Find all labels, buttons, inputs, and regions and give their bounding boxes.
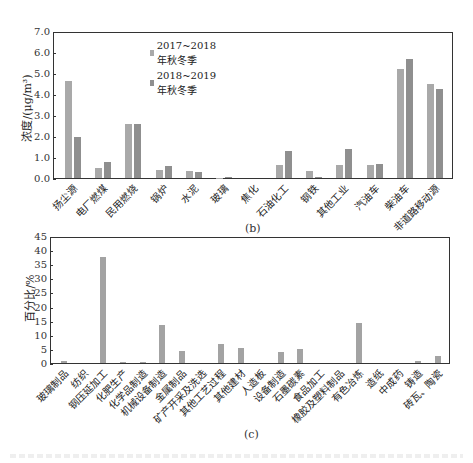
legend-swatch-2018 [150,80,154,86]
bar-2017 [336,165,343,178]
bar-2017 [156,170,163,178]
bar-2018 [315,177,322,178]
y-tick-label: 45 [19,232,47,242]
y-tick-label: 25 [19,288,47,298]
bar-2018 [436,89,443,178]
bar-2018 [406,59,413,178]
bar-2018 [285,151,292,178]
y-tick-label: 0.0 [22,174,50,184]
bar-c [179,351,185,363]
bar-c [238,348,244,363]
y-tick-mark [53,74,56,75]
panel-label-b: (b) [245,222,261,235]
bar-2018 [74,137,81,178]
bar-c [218,344,224,363]
bar-2018 [195,172,202,178]
y-tick-label: 5.0 [22,69,50,79]
legend-item-2017: 2017~2018年秋冬季 [150,38,218,68]
bar-2018 [134,124,141,178]
figure-caption [0,452,473,460]
bar-2017 [397,69,404,178]
y-tick-label: 20 [19,303,47,313]
y-tick-label: 4.0 [22,90,50,100]
legend-swatch-2017 [150,50,154,56]
bar-c [140,362,146,363]
y-tick-mark [50,308,53,309]
bar-2017 [427,84,434,178]
y-tick-mark [50,364,53,365]
y-tick-label: 6.0 [22,48,50,58]
y-tick-mark [50,265,53,266]
bar-c [61,361,67,363]
y-tick-label: 1.0 [22,153,50,163]
y-tick-label: 2.0 [22,132,50,142]
y-tick-label: 35 [19,260,47,270]
y-tick-label: 10 [19,331,47,341]
legend-item-2018: 2018~2019年秋冬季 [150,68,218,98]
bar-c [159,325,165,363]
y-tick-mark [50,322,53,323]
y-tick-label: 40 [19,246,47,256]
y-tick-label: 30 [19,274,47,284]
plot-area-b [53,32,453,179]
caption-text-faint [10,454,463,458]
y-tick-mark [53,95,56,96]
bar-2017 [125,124,132,178]
bar-2018 [345,149,352,178]
bar-2017 [276,165,283,178]
y-tick-label: 7.0 [22,27,50,37]
y-tick-label: 3.0 [22,111,50,121]
legend-label-2017: 2017~2018年秋冬季 [157,38,219,68]
y-tick-mark [50,350,53,351]
bar-c [120,362,126,363]
legend-b: 2017~2018年秋冬季 2018~2019年秋冬季 [150,38,218,98]
y-tick-label: 5 [19,345,47,355]
bar-2018 [104,162,111,178]
bar-c [297,349,303,363]
y-tick-mark [50,336,53,337]
y-tick-mark [53,116,56,117]
bar-c [435,356,441,363]
y-tick-mark [53,137,56,138]
bar-2017 [95,168,102,178]
y-tick-label: 15 [19,317,47,327]
bar-c [356,323,362,363]
y-tick-mark [53,179,56,180]
bar-c [100,257,106,363]
y-tick-mark [50,251,53,252]
bar-2017 [367,165,374,178]
bar-2017 [65,81,72,178]
plot-area-c [50,237,450,364]
panel-label-c: (c) [244,428,259,441]
bar-2018 [225,177,232,178]
bar-2018 [376,164,383,179]
y-tick-label: 0 [19,359,47,369]
y-tick-mark [53,158,56,159]
bar-c [415,361,421,363]
bar-2017 [186,171,193,178]
bar-2017 [306,171,313,178]
y-tick-mark [50,293,53,294]
y-tick-mark [53,32,56,33]
bar-c [278,352,284,363]
y-tick-mark [50,279,53,280]
y-tick-mark [53,53,56,54]
y-tick-mark [50,237,53,238]
legend-label-2018: 2018~2019年秋冬季 [157,68,219,98]
bar-2018 [165,166,172,178]
